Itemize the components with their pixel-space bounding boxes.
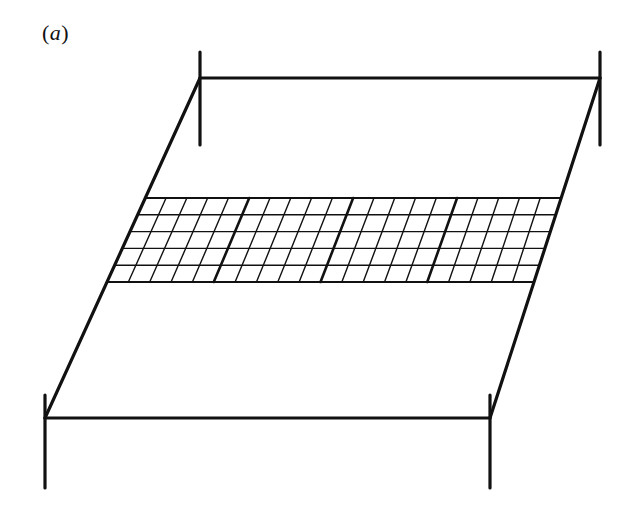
slab-diagram — [0, 0, 635, 520]
grid-column-line — [470, 198, 499, 282]
grid-column-line — [192, 198, 228, 282]
grid-column-line — [342, 198, 374, 282]
grid-column-line — [513, 198, 541, 282]
grid-column-line — [171, 198, 208, 282]
grid-band — [107, 198, 561, 282]
grid-column-line — [235, 198, 270, 282]
grid-column-line — [128, 198, 166, 282]
grid-column-line — [150, 198, 187, 282]
grid-block-divider — [214, 198, 249, 282]
grid-column-line — [256, 198, 290, 282]
grid-column-line — [278, 198, 312, 282]
grid-column-line — [299, 198, 332, 282]
grid-column-line — [363, 198, 395, 282]
grid-column-line — [491, 198, 519, 282]
grid-block-divider — [321, 198, 354, 282]
